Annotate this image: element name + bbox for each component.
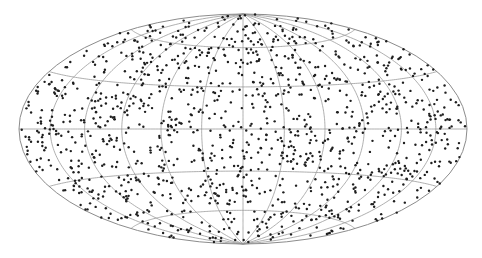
data-point xyxy=(26,153,28,155)
data-point xyxy=(347,137,349,139)
data-point xyxy=(228,227,230,229)
data-point xyxy=(399,167,401,169)
data-point xyxy=(60,151,62,153)
data-point xyxy=(368,86,370,88)
data-point xyxy=(305,20,307,22)
data-point xyxy=(432,68,434,70)
data-point xyxy=(425,141,427,143)
data-point xyxy=(229,156,231,158)
data-point xyxy=(224,55,226,57)
data-point xyxy=(218,85,220,87)
data-point xyxy=(424,174,426,176)
data-point xyxy=(72,171,74,173)
data-point xyxy=(385,173,387,175)
data-point xyxy=(192,131,194,133)
data-point xyxy=(457,119,459,121)
data-point xyxy=(136,160,138,162)
data-point xyxy=(377,94,379,96)
data-point xyxy=(408,53,410,55)
data-point xyxy=(348,126,350,128)
data-point xyxy=(50,81,52,83)
data-point xyxy=(281,225,283,227)
data-point xyxy=(24,136,26,138)
data-point xyxy=(159,32,161,34)
data-point xyxy=(258,23,260,25)
data-point xyxy=(431,139,433,141)
data-point xyxy=(319,155,321,157)
data-point xyxy=(306,133,308,135)
data-point xyxy=(100,175,102,177)
data-point xyxy=(162,170,164,172)
data-point xyxy=(175,124,177,126)
data-point xyxy=(434,118,436,120)
data-point xyxy=(176,131,178,133)
data-point xyxy=(405,101,407,103)
data-point xyxy=(30,111,32,113)
data-point xyxy=(160,166,162,168)
data-point xyxy=(94,64,96,66)
data-point xyxy=(284,55,286,57)
data-point xyxy=(258,228,260,230)
data-point xyxy=(394,93,396,95)
data-point xyxy=(154,29,156,31)
data-point xyxy=(309,152,311,154)
data-point xyxy=(370,174,372,176)
data-point xyxy=(171,59,173,61)
data-point xyxy=(295,206,297,208)
data-point xyxy=(62,121,64,123)
data-point xyxy=(331,72,333,74)
data-point xyxy=(444,133,446,135)
data-point xyxy=(381,107,383,109)
data-point xyxy=(434,160,436,162)
data-point xyxy=(338,157,340,159)
data-point xyxy=(100,92,102,94)
data-point xyxy=(332,185,334,187)
data-point xyxy=(150,61,152,63)
data-point xyxy=(284,35,286,37)
data-point xyxy=(436,181,438,183)
data-point xyxy=(126,216,128,218)
data-point xyxy=(49,119,51,121)
data-point xyxy=(166,210,168,212)
data-point xyxy=(88,179,90,181)
data-point xyxy=(298,73,300,75)
data-point xyxy=(147,175,149,177)
data-point xyxy=(309,116,311,118)
data-point xyxy=(304,165,306,167)
data-point xyxy=(209,157,211,159)
data-point xyxy=(328,217,330,219)
data-point xyxy=(419,128,421,130)
data-point xyxy=(433,114,435,116)
data-point xyxy=(66,66,68,68)
data-point xyxy=(320,186,322,188)
data-point xyxy=(206,104,208,106)
data-point xyxy=(56,95,58,97)
data-point xyxy=(400,174,402,176)
data-point xyxy=(209,237,211,239)
data-point xyxy=(242,189,244,191)
data-point xyxy=(339,78,341,80)
data-point xyxy=(264,191,266,193)
data-point xyxy=(269,189,271,191)
data-point xyxy=(348,210,350,212)
data-point xyxy=(320,209,322,211)
data-point xyxy=(159,55,161,57)
data-point xyxy=(256,88,258,90)
data-point xyxy=(104,186,106,188)
data-point xyxy=(301,80,303,82)
data-point xyxy=(108,217,110,219)
data-point xyxy=(342,227,344,229)
data-point xyxy=(397,129,399,131)
data-point xyxy=(224,110,226,112)
data-point xyxy=(41,136,43,138)
data-point xyxy=(143,73,145,75)
data-point xyxy=(420,159,422,161)
data-point xyxy=(131,58,133,60)
data-point xyxy=(268,154,270,156)
data-point xyxy=(241,74,243,76)
data-point xyxy=(241,40,243,42)
data-point xyxy=(135,177,137,179)
data-point xyxy=(250,40,252,42)
data-point xyxy=(209,130,211,132)
data-point xyxy=(283,89,285,91)
